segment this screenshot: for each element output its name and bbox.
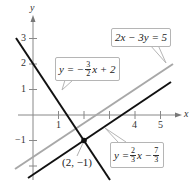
equation-label-gray-line: 2x − 3y = 5	[111, 28, 171, 47]
y-tick-label-1: 1	[21, 83, 26, 94]
eq1-fraction: 3 2	[85, 61, 91, 78]
equation-label-steep-line: y = − 3 2 x + 2	[55, 57, 120, 81]
eq1-rhs: x + 2	[92, 64, 115, 75]
eq1-lhs: y = −	[59, 64, 84, 75]
eq3-fraction-2: 7 3	[153, 147, 159, 164]
eq2-text: 2x − 3y = 5	[115, 32, 167, 43]
x-tick-label-1: 1	[56, 119, 61, 130]
y-tick-label-2: 2	[21, 57, 26, 68]
callout-pointer-eq3	[105, 128, 126, 142]
y-axis-arrow	[31, 15, 36, 22]
eq1-denominator: 2	[86, 70, 90, 78]
eq3-mid: x −	[137, 150, 152, 161]
y-axis-label: y	[30, 2, 34, 13]
x-tick-label-4: 4	[132, 119, 137, 130]
eq3-lhs: y =	[114, 150, 129, 161]
x-axis-arrow	[175, 113, 182, 118]
eq3-denominator-2: 3	[154, 156, 158, 164]
intersection-label: (2, −1)	[62, 156, 92, 168]
intersection-point	[81, 138, 87, 144]
y-tick-label-3: 3	[21, 32, 26, 43]
callout-pointer-eq1	[62, 80, 73, 90]
x-axis-label: x	[184, 108, 188, 119]
eq3-denominator-1: 3	[131, 156, 135, 164]
callout-pointer-eq2	[150, 45, 166, 63]
y-tick-label-neg1: −1	[15, 134, 26, 145]
equation-label-black-line: y = 2 3 x − 7 3	[110, 142, 164, 168]
x-tick-label-5: 5	[158, 119, 163, 130]
eq3-fraction-1: 2 3	[130, 147, 136, 164]
